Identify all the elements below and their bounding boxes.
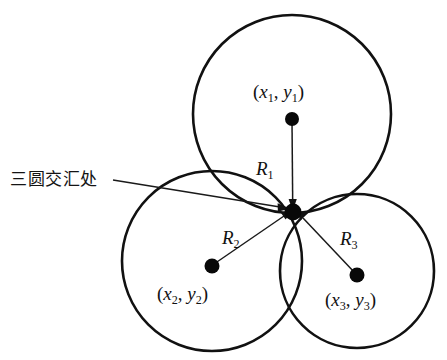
circle-2-label-close-paren: ) bbox=[202, 283, 208, 304]
circle-3-label-x: x bbox=[331, 289, 339, 310]
radius-1-symbol: R bbox=[256, 158, 268, 179]
radius-3-label: R3 bbox=[340, 229, 358, 248]
circle-3-center-label: (x3, y3) bbox=[325, 290, 376, 309]
radius-line-1 bbox=[292, 121, 293, 203]
circle-2-label-y-subscript: 2 bbox=[196, 293, 202, 307]
circle-1-label-x-subscript: 1 bbox=[268, 91, 274, 105]
radius-2-subscript: 2 bbox=[234, 237, 240, 251]
circle-1-label-x: x bbox=[259, 81, 267, 102]
circle-1-center-dot bbox=[285, 112, 299, 126]
intersection-callout-label: 三圆交汇处 bbox=[10, 171, 98, 188]
intersection-point-dot bbox=[285, 204, 302, 221]
circle-2-label-x: x bbox=[163, 283, 171, 304]
circle-2-label-x-subscript: 2 bbox=[172, 293, 178, 307]
radius-1-subscript: 1 bbox=[268, 168, 274, 182]
figure-root: (x1, y1) R1 (x2, y2) R2 (x3, y3) R3 三圆交汇… bbox=[0, 0, 447, 360]
circle-1-center-label: (x1, y1) bbox=[253, 82, 304, 101]
circle-2-center-label: (x2, y2) bbox=[157, 284, 208, 303]
circle-2-label-y: y bbox=[187, 283, 195, 304]
radius-3-subscript: 3 bbox=[352, 238, 358, 252]
circle-3-center-dot bbox=[350, 268, 365, 283]
radius-2-label: R2 bbox=[222, 228, 240, 247]
callout-leader-line bbox=[113, 180, 280, 207]
radius-3-symbol: R bbox=[340, 228, 352, 249]
circle-1-label-close-paren: ) bbox=[298, 81, 304, 102]
radius-1-label: R1 bbox=[256, 159, 274, 178]
circle-1-label-y-subscript: 1 bbox=[292, 91, 298, 105]
circle-3-label-y-subscript: 3 bbox=[364, 299, 370, 313]
circle-3-label-x-subscript: 3 bbox=[340, 299, 346, 313]
circle-3-label-comma: , bbox=[346, 289, 356, 310]
circle-3-label-close-paren: ) bbox=[370, 289, 376, 310]
circle-2-label-comma: , bbox=[178, 283, 188, 304]
circle-3-label-y: y bbox=[355, 289, 363, 310]
circle-1-label-comma: , bbox=[274, 81, 284, 102]
circle-1-label-y: y bbox=[283, 81, 291, 102]
radius-2-symbol: R bbox=[222, 227, 234, 248]
circle-2-center-dot bbox=[205, 259, 220, 274]
